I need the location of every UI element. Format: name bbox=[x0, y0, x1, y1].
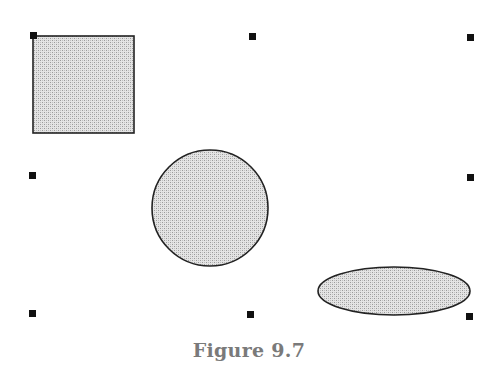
selection-handle[interactable] bbox=[249, 33, 256, 40]
selection-handle[interactable] bbox=[467, 34, 474, 41]
shapes-layer bbox=[33, 36, 470, 315]
selection-handle[interactable] bbox=[466, 313, 473, 320]
selection-handle[interactable] bbox=[29, 172, 36, 179]
selection-handle[interactable] bbox=[30, 32, 37, 39]
selection-handle[interactable] bbox=[467, 174, 474, 181]
circle-shape[interactable] bbox=[152, 150, 268, 266]
selection-handle[interactable] bbox=[29, 310, 36, 317]
rectangle-shape[interactable] bbox=[33, 36, 134, 133]
ellipse-shape[interactable] bbox=[318, 267, 470, 315]
figure-caption: Figure 9.7 bbox=[0, 339, 498, 361]
selection-handle[interactable] bbox=[247, 311, 254, 318]
